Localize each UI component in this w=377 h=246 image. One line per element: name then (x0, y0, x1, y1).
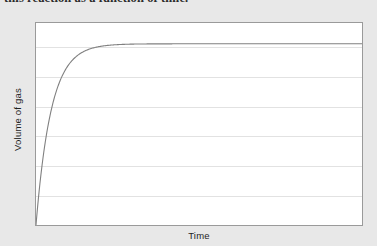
caption-text: this reaction as a function of time. (4, 0, 188, 6)
y-axis-label: Volume of gas (0, 12, 34, 226)
x-axis-label: Time (35, 230, 363, 241)
figure-container: Volume of gas Time (0, 12, 377, 246)
caption-strip: this reaction as a function of time. (0, 0, 377, 12)
curve-svg (36, 23, 362, 225)
y-axis-label-text: Volume of gas (12, 88, 23, 151)
gas-volume-curve (36, 44, 362, 225)
plot-area (35, 22, 363, 226)
